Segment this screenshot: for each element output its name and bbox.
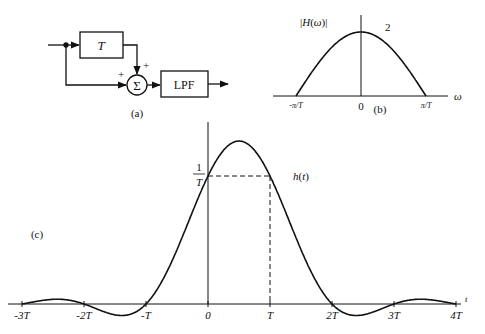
tick-label: 0: [205, 309, 211, 321]
level-label-denominator: T: [196, 176, 203, 188]
t-tick-labels: -3T-2T-T0T2T3T4T: [14, 309, 462, 321]
impulse-response-plot: [8, 122, 461, 316]
summer-symbol: Σ: [133, 78, 141, 93]
level-label-numerator: 1: [196, 161, 202, 173]
summer-plus-top: +: [143, 59, 149, 71]
t-axis-label: t: [465, 294, 468, 304]
delay-label: T: [97, 38, 105, 53]
tick-neg-pi-over-t: -π/T: [289, 101, 303, 110]
caption-a: (a): [131, 107, 144, 120]
caption-c: (c): [31, 228, 44, 241]
tick-label: 4T: [450, 309, 463, 321]
tick-label: -3T: [14, 309, 30, 321]
tick-label: 3T: [387, 309, 401, 321]
tick-label: -T: [141, 309, 152, 321]
figure-canvas: T Σ + + LPF (a) |H(ω)| 2 ω -π/T 0 π/T (b…: [0, 0, 485, 334]
magnitude-peak-label: 2: [385, 21, 391, 33]
lpf-label: LPF: [174, 78, 195, 92]
tick-label: T: [267, 309, 274, 321]
tick-label: 2T: [326, 309, 339, 321]
magnitude-ylabel: |H(ω)|: [300, 16, 327, 29]
tick-zero-b: 0: [358, 100, 364, 112]
summer-plus-left: +: [118, 68, 124, 80]
caption-b: (b): [374, 103, 387, 116]
omega-axis-label: ω: [454, 90, 462, 102]
delay-output-path: [123, 45, 137, 74]
impulse-response-curve: [22, 141, 456, 316]
curve-label: h(t): [293, 170, 309, 183]
tick-pi-over-t: π/T: [421, 101, 432, 110]
tick-label: -2T: [76, 309, 92, 321]
